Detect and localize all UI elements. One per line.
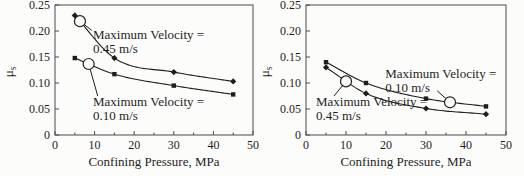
annotation-1-line-1: Maximum Velocity = [316, 94, 427, 109]
y-tick-label: 0.20 [29, 24, 50, 38]
annotation-1-line-2: 0.45 m/s [316, 108, 361, 123]
annotation-0-line-2: 0.10 m/s [385, 80, 430, 95]
y-tick-label: 0.05 [280, 102, 301, 116]
y-axis-title: μs [1, 66, 18, 77]
y-tick-label: 0.20 [280, 24, 301, 38]
square-marker [172, 83, 176, 87]
diamond-marker [323, 64, 329, 70]
y-tick-label: 0 [295, 128, 301, 142]
y-tick-label: 0.25 [29, 0, 50, 12]
x-tick-label: 20 [128, 138, 140, 152]
left-chart: 0102030405000.050.100.150.200.25Confinin… [0, 0, 262, 176]
x-tick-label: 50 [247, 138, 259, 152]
y-tick-label: 0.10 [29, 76, 50, 90]
annotation-1-circle [341, 76, 352, 87]
right-chart: 0102030405000.050.100.150.200.25Confinin… [262, 0, 524, 176]
y-tick-label: 0 [44, 128, 50, 142]
x-tick-label: 10 [89, 138, 101, 152]
annotation-1-circle [83, 59, 94, 70]
x-tick-label: 40 [207, 138, 219, 152]
x-axis-title: Confining Pressure, MPa [340, 154, 471, 169]
x-tick-label: 50 [500, 138, 512, 152]
annotation-0-circle [445, 97, 456, 108]
square-marker [484, 104, 488, 108]
annotation-1-line-2: 0.10 m/s [93, 108, 138, 123]
axes: 0102030405000.050.100.150.200.25Confinin… [1, 0, 259, 169]
y-tick-label: 0.10 [280, 76, 301, 90]
annotation-0-line-1: Maximum Velocity = [385, 66, 496, 81]
y-tick-label: 0.15 [280, 50, 301, 64]
annotation-1-line-1: Maximum Velocity = [93, 94, 204, 109]
square-marker [112, 72, 116, 76]
x-tick-label: 20 [380, 138, 392, 152]
x-tick-label: 0 [52, 138, 58, 152]
x-tick-label: 0 [303, 138, 309, 152]
square-marker [73, 56, 77, 60]
annotation-0-line-2: 0.45 m/s [93, 41, 138, 56]
y-tick-label: 0.05 [29, 102, 50, 116]
x-axis-title: Confining Pressure, MPa [88, 154, 219, 169]
y-tick-label: 0.15 [29, 50, 50, 64]
square-marker [324, 60, 328, 64]
y-tick-label: 0.25 [280, 0, 301, 12]
annotation-0-circle [74, 16, 85, 27]
diamond-marker [483, 111, 489, 117]
y-axis-title: μs [262, 66, 274, 77]
x-tick-label: 10 [340, 138, 352, 152]
diamond-marker [230, 78, 236, 84]
friction-vs-confining-pressure-figure: 0102030405000.050.100.150.200.25Confinin… [0, 0, 524, 176]
series-1-curve [75, 58, 233, 94]
diamond-marker [171, 69, 177, 75]
annotation-0-line-1: Maximum Velocity = [93, 27, 204, 42]
series-1-markers [73, 56, 236, 97]
square-marker [364, 81, 368, 85]
square-marker [231, 92, 235, 96]
x-tick-label: 30 [420, 138, 432, 152]
x-tick-label: 40 [460, 138, 472, 152]
x-tick-label: 30 [168, 138, 180, 152]
